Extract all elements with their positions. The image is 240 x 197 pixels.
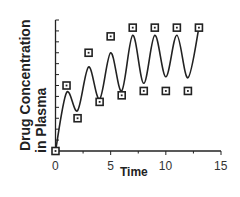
data-point-marker [96, 98, 103, 105]
curve-path [56, 28, 199, 151]
data-point-marker [140, 87, 147, 94]
data-point-marker [107, 33, 114, 40]
data-point-marker [162, 87, 169, 94]
data-point-marker [151, 24, 158, 31]
x-tick-label: 10 [159, 159, 172, 173]
data-point-marker [52, 148, 59, 155]
x-tick-label: 5 [107, 159, 114, 173]
y-axis-label-line2: in Plasma [33, 88, 49, 153]
data-point-marker [184, 87, 191, 94]
data-point-marker [195, 24, 202, 31]
data-point-marker [118, 92, 125, 99]
data-point-marker [63, 82, 70, 89]
x-tick-label: 15 [214, 159, 227, 173]
model-curve [56, 28, 199, 151]
x-tick-label: 0 [52, 159, 59, 173]
data-point-marker [173, 24, 180, 31]
data-point-marker [129, 24, 136, 31]
x-axis-label: Time [120, 165, 148, 179]
data-point-marker [85, 49, 92, 56]
y-axis-label-line1: Drug Concentration [17, 20, 33, 151]
data-point-marker [74, 115, 81, 122]
